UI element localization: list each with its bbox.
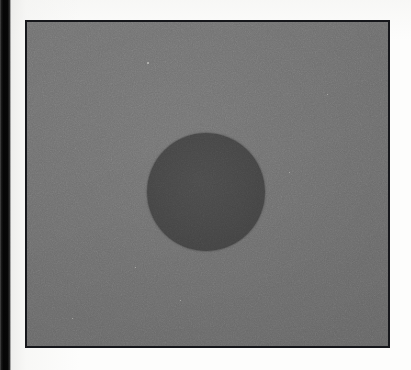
dust-speck — [289, 172, 290, 173]
figure-plate — [25, 20, 390, 348]
dark-disc-marker — [147, 133, 265, 251]
dust-speck — [339, 347, 341, 348]
dust-speck — [327, 94, 328, 95]
book-gutter-shadow — [0, 0, 11, 370]
dust-speck — [72, 318, 73, 319]
dust-speck — [180, 300, 181, 301]
dust-speck — [135, 267, 136, 268]
dust-speck — [147, 62, 149, 64]
scanned-page — [0, 0, 411, 370]
